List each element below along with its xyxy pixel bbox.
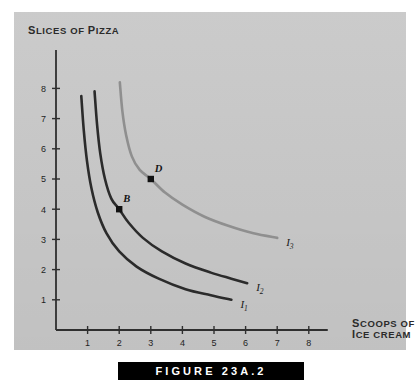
curve-label-i1: I1 [239, 298, 247, 313]
x-axis-tick-label: 3 [148, 338, 153, 348]
indifference-curve-i1 [81, 96, 231, 300]
x-axis-tick-label: 6 [243, 338, 248, 348]
y-axis-tick-label: 4 [41, 205, 46, 215]
y-axis-label: SLICES OF PIZZA [28, 24, 119, 36]
curve-label-subscript: 3 [289, 242, 294, 251]
curve-label-i3: I3 [285, 236, 294, 251]
indifference-curve-i2 [95, 91, 248, 283]
x-axis-tick-label: 2 [117, 338, 122, 348]
curve-label-subscript: 1 [244, 304, 248, 313]
y-axis-tick-label: 3 [41, 235, 46, 245]
x-axis-label: SCOOPS OF ICE CREAM [352, 318, 415, 340]
data-point-marker-b [116, 206, 122, 212]
x-axis-tick-label: 7 [275, 338, 280, 348]
y-axis-tick-label: 5 [41, 174, 46, 184]
y-axis-tick-label: 2 [41, 265, 46, 275]
curve-label-subscript: 2 [260, 287, 264, 296]
x-axis-tick-label: 8 [306, 338, 311, 348]
y-axis-tick-label: 1 [41, 295, 46, 305]
data-point-marker-d [148, 176, 154, 182]
x-axis-tick-label: 4 [180, 338, 185, 348]
indifference-curve-plot: 1234567812345678I1I2I3BD [14, 12, 406, 350]
data-point-label-d: D [154, 163, 163, 174]
figure-caption: FIGURE 23A.2 [118, 362, 304, 380]
y-axis-tick-label: 7 [41, 114, 46, 124]
x-axis-tick-label: 1 [85, 338, 90, 348]
figure-root: 1234567812345678I1I2I3BD SLICES OF PIZZA… [0, 0, 420, 383]
data-point-label-b: B [122, 193, 130, 204]
y-axis-tick-label: 6 [41, 144, 46, 154]
curve-label-i2: I2 [255, 281, 264, 296]
indifference-curve-i3 [120, 82, 277, 238]
x-axis-tick-label: 5 [211, 338, 216, 348]
y-axis-tick-label: 8 [41, 84, 46, 94]
